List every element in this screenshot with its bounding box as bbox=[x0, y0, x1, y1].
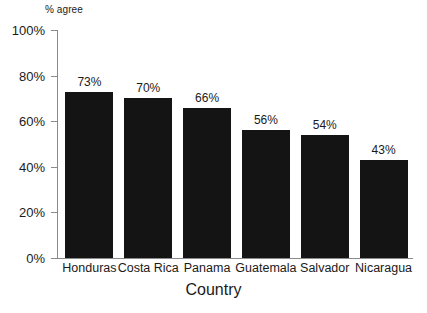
bar-value-label: 73% bbox=[77, 76, 101, 88]
bar[interactable] bbox=[124, 98, 172, 258]
bar-group: 43% bbox=[360, 30, 408, 258]
bar-group: 66% bbox=[183, 30, 231, 258]
y-axis-tick bbox=[51, 258, 57, 259]
y-axis-tick-label: 40% bbox=[0, 161, 45, 174]
bar[interactable] bbox=[301, 135, 349, 258]
x-axis-tick-label: Salvador bbox=[293, 261, 356, 275]
bar-value-label: 54% bbox=[313, 119, 337, 131]
x-axis-tick-label: Costa Rica bbox=[117, 261, 180, 275]
y-axis-tick-label: 0% bbox=[0, 252, 45, 265]
bar-value-label: 43% bbox=[372, 144, 396, 156]
bar-chart-figure: % agree 100%80%60%40%20%0% 73%70%66%56%5… bbox=[0, 0, 427, 313]
bar[interactable] bbox=[360, 160, 408, 258]
x-axis-tick-label: Honduras bbox=[58, 261, 121, 275]
y-axis-tick-label: 80% bbox=[0, 70, 45, 83]
bar[interactable] bbox=[242, 130, 290, 258]
bar-value-label: 70% bbox=[136, 82, 160, 94]
y-axis-tick-label: 60% bbox=[0, 115, 45, 128]
bar-group: 56% bbox=[242, 30, 290, 258]
bar-group: 54% bbox=[301, 30, 349, 258]
bar-value-label: 66% bbox=[195, 92, 219, 104]
x-axis-line bbox=[57, 258, 413, 259]
x-axis-title: Country bbox=[0, 281, 427, 299]
bar-group: 73% bbox=[65, 30, 113, 258]
x-axis-tick-label: Nicaragua bbox=[352, 261, 415, 275]
y-axis-title: % agree bbox=[45, 4, 83, 15]
x-axis-tick-label: Panama bbox=[176, 261, 239, 275]
bar-group: 70% bbox=[124, 30, 172, 258]
bar-value-label: 56% bbox=[254, 114, 278, 126]
x-axis-tick-label: Guatemala bbox=[235, 261, 298, 275]
y-axis-tick-label: 100% bbox=[0, 24, 45, 37]
bar[interactable] bbox=[183, 108, 231, 258]
bar[interactable] bbox=[65, 92, 113, 258]
plot-area: 73%70%66%56%54%43% bbox=[57, 30, 410, 258]
y-axis-tick-label: 20% bbox=[0, 206, 45, 219]
